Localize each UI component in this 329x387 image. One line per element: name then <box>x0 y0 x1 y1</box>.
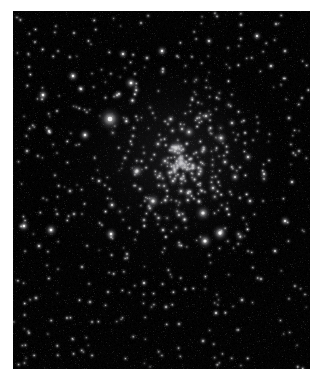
star-cluster-photograph <box>13 11 310 369</box>
vertical-scrollbar-track[interactable] <box>318 112 329 211</box>
page-root <box>0 0 329 387</box>
star-field-canvas <box>13 11 310 369</box>
